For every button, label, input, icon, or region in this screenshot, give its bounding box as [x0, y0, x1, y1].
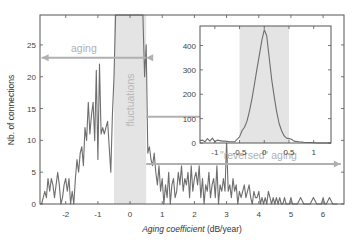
x-tick-label: 4: [257, 210, 262, 219]
y-tick-label: 20: [27, 73, 36, 82]
y-tick-label: 10: [27, 136, 36, 145]
arrow-head-icon: [146, 54, 153, 61]
y-tick-label: 5: [32, 168, 37, 177]
y-tick-label: 400: [183, 42, 197, 51]
x-tick-label: 3: [224, 210, 229, 219]
x-tick-label: 5: [289, 210, 294, 219]
x-tick-label: 0: [128, 210, 133, 219]
x-tick-label: 6: [321, 210, 326, 219]
y-tick-label: 0: [32, 200, 37, 209]
main-y-tick-labels: 0510152025: [27, 41, 36, 209]
x-tick-label: -1: [94, 210, 102, 219]
x-tick-label: 0: [262, 148, 267, 157]
shaded-band: [240, 26, 289, 143]
x-tick-label: 2: [192, 210, 197, 219]
y-tick-label: 100: [183, 115, 197, 124]
x-tick-label: 1: [160, 210, 165, 219]
x-tick-label: -1: [211, 148, 219, 157]
x-tick-label: -2: [62, 210, 70, 219]
y-tick-label: 15: [27, 105, 36, 114]
x-tick-label: -0.5: [233, 148, 247, 157]
x-tick-label: 1: [311, 148, 316, 157]
x-axis-title: Aging coefficient (dB/year): [141, 224, 242, 234]
inset-shaded-region: [240, 26, 289, 143]
arrow-head-icon: [42, 54, 49, 61]
fluctuations-label: fluctuations: [124, 73, 136, 126]
aging-coefficient-chart: -2-10123456 0510152025 fluctuations agin…: [0, 0, 357, 249]
main-x-tick-labels: -2-10123456: [62, 210, 326, 219]
x-axis-title-main: Aging coefficient: [141, 224, 205, 234]
y-axis-title: Nb. of connections: [6, 75, 16, 145]
inset-y-tick-labels: 0100200300400: [183, 42, 197, 149]
aging-label: aging: [71, 42, 97, 54]
y-tick-label: 25: [27, 41, 36, 50]
chart-svg: -2-10123456 0510152025 fluctuations agin…: [0, 0, 357, 249]
y-tick-label: 200: [183, 90, 197, 99]
y-tick-label: 300: [183, 66, 197, 75]
arrow-head-icon: [334, 160, 341, 167]
x-axis-title-unit: (dB/year): [205, 224, 242, 234]
y-tick-label: 0: [192, 139, 197, 148]
x-tick-label: 0.5: [283, 148, 295, 157]
